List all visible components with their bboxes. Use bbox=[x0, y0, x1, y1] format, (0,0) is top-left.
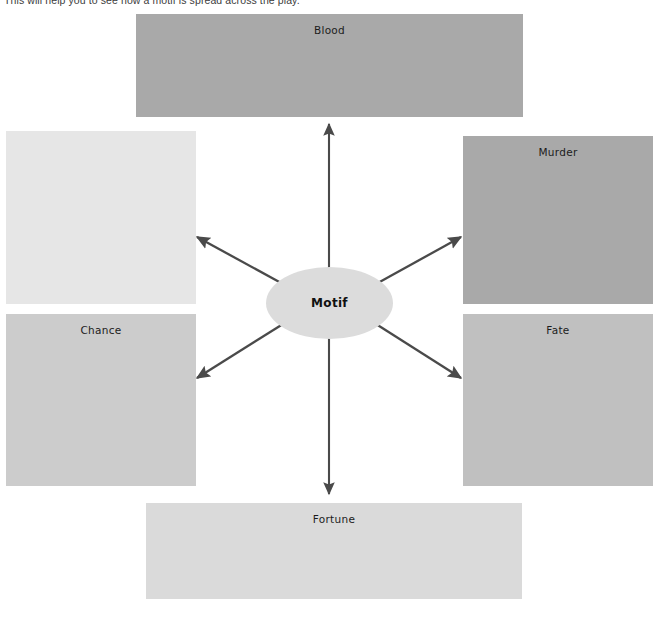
arrow-up-right bbox=[376, 237, 461, 284]
branch-box-blood[interactable]: Blood bbox=[136, 14, 523, 117]
branch-label-murder: Murder bbox=[538, 146, 577, 158]
branch-box-chance[interactable]: Chance bbox=[6, 314, 196, 486]
arrow-down-left bbox=[197, 324, 283, 378]
branch-label-fortune: Fortune bbox=[313, 513, 355, 525]
branch-label-chance: Chance bbox=[80, 324, 121, 336]
branch-label-fate: Fate bbox=[546, 324, 569, 336]
arrow-up-left bbox=[197, 237, 283, 284]
worksheet-canvas: This will help you to see how a motif is… bbox=[0, 0, 662, 624]
center-node-motif[interactable]: Motif bbox=[266, 267, 393, 339]
branch-box-fate[interactable]: Fate bbox=[463, 314, 653, 486]
branch-box-fortune[interactable]: Fortune bbox=[146, 503, 522, 599]
arrow-down-right bbox=[376, 324, 461, 378]
branch-label-blood: Blood bbox=[314, 24, 345, 36]
branch-box-murder[interactable]: Murder bbox=[463, 136, 653, 304]
branch-box-blank[interactable] bbox=[6, 131, 196, 304]
center-node-label: Motif bbox=[311, 296, 348, 310]
